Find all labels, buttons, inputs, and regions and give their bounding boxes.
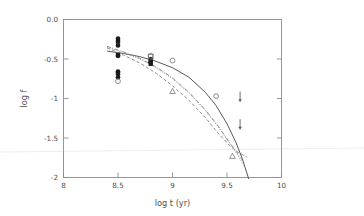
y-tick-label-2: -1	[51, 94, 58, 103]
model-curves	[107, 46, 249, 179]
marker-open-triangle	[170, 88, 176, 93]
x-tick-label-1: 8.5	[112, 181, 123, 190]
marker-filled-square	[116, 71, 120, 75]
x-axis-title: log t (yr)	[155, 198, 191, 208]
marker-open-circle	[214, 94, 219, 99]
y-axis-title: log f	[19, 88, 29, 107]
artifact-lines	[0, 148, 364, 152]
y-tick-label-1: -0.5	[44, 55, 58, 64]
marker-filled-square	[116, 53, 120, 57]
plot-frame	[64, 20, 282, 178]
marker-open-triangle	[230, 153, 236, 158]
marker-filled-square	[149, 62, 153, 66]
y-tick-label-3: -1.5	[44, 134, 58, 143]
marker-filled-square	[116, 39, 120, 43]
marker-open-circle	[170, 58, 175, 63]
y-axis-ticks	[64, 20, 69, 178]
x-tick-label-0: 8	[61, 181, 66, 190]
x-tick-label-4: 10	[277, 181, 287, 190]
curve-solid	[107, 51, 249, 179]
data-markers	[116, 36, 242, 158]
x-tick-label-3: 9.5	[221, 181, 232, 190]
curve-dotted	[107, 47, 244, 166]
y-tick-label-4: -2	[51, 173, 58, 182]
y-tick-label-0: 0.0	[47, 15, 59, 24]
curve-dashed	[107, 48, 247, 157]
upper-limit-arrow	[238, 119, 241, 130]
y-axis-right-ticks	[277, 59, 282, 138]
scatter-plot: 0.0 -0.5 -1 -1.5 -2 8 8.5 9 9.5 10 log t…	[0, 0, 364, 216]
curve-dashdot	[107, 46, 244, 163]
x-axis-ticks	[64, 173, 282, 178]
upper-limit-arrow	[238, 92, 241, 103]
x-tick-label-2: 9	[170, 181, 175, 190]
figure-panel: 0.0 -0.5 -1 -1.5 -2 8 8.5 9 9.5 10 log t…	[0, 0, 364, 216]
marker-filled-circle	[116, 43, 121, 48]
